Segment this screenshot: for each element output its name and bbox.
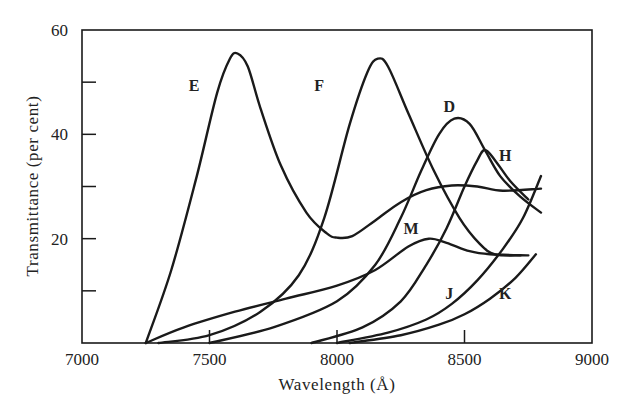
curve-label-e: E: [189, 77, 200, 94]
curve-d: [210, 118, 542, 343]
curve-label-d: D: [443, 98, 455, 115]
curve-m: [146, 239, 529, 343]
curve-h: [312, 150, 529, 343]
transmittance-chart: 70007500800085009000204060 EFDHMJK Wavel…: [0, 0, 627, 415]
x-tick-label: 7500: [193, 350, 227, 369]
curve-j: [337, 176, 541, 343]
curve-label-h: H: [499, 147, 512, 164]
y-axis-title: Transmittance (per cent): [23, 96, 42, 277]
curve-label-j: J: [445, 285, 453, 302]
x-axis-title: Wavelength (Å): [278, 375, 395, 394]
y-tick-label: 20: [51, 230, 68, 249]
y-tick-label: 60: [51, 21, 68, 40]
x-tick-label: 9000: [575, 350, 609, 369]
curve-e: [146, 53, 541, 343]
x-tick-label: 8500: [448, 350, 482, 369]
curve-label-m: M: [403, 220, 418, 237]
x-tick-label: 8000: [320, 350, 354, 369]
y-tick-label: 40: [51, 125, 68, 144]
x-tick-label: 7000: [65, 350, 99, 369]
curve-label-f: F: [314, 77, 324, 94]
curve-label-k: K: [499, 285, 512, 302]
curves: [146, 53, 541, 343]
axis-ticks: [82, 82, 465, 343]
